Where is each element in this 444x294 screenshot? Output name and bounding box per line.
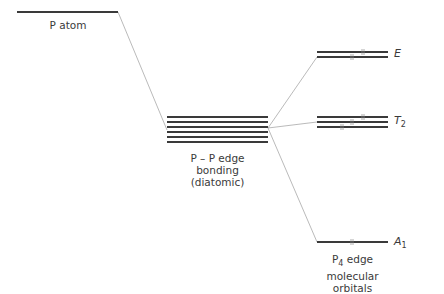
e-degeneracy-ticks [351, 49, 364, 60]
t2-symmetry-label: T2 [394, 114, 406, 129]
diatomic-label: P – P edge bonding (diatomic) [167, 152, 268, 188]
e-symmetry-label: E [394, 47, 401, 60]
p-atom-label: P atom [28, 19, 108, 31]
a1-symmetry-label: A1 [394, 235, 407, 250]
e-levels [317, 52, 388, 57]
connector-atom-to-diatomic [118, 12, 167, 130]
connector-diatomic-to-t2 [268, 122, 317, 128]
connector-diatomic-to-e [268, 57, 317, 128]
connector-diatomic-to-a1 [268, 128, 317, 242]
diatomic-levels [167, 117, 268, 142]
p4-label: P4 edge molecular orbitals [317, 253, 388, 294]
t2-levels [317, 117, 388, 127]
